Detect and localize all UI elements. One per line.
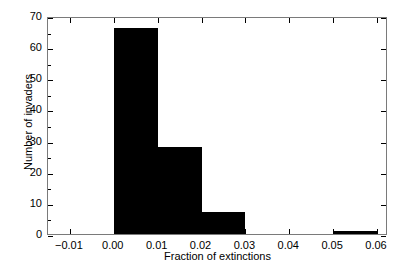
x-tick-mark bbox=[289, 229, 290, 234]
y-tick-mark-right bbox=[381, 18, 386, 19]
x-tick-mark bbox=[158, 229, 159, 234]
x-tick-label: 0.05 bbox=[309, 240, 355, 251]
y-tick-label: 70 bbox=[2, 11, 42, 22]
y-tick-mark bbox=[48, 49, 53, 50]
y-tick-label: 50 bbox=[2, 73, 42, 84]
y-minor-tick-mark bbox=[48, 96, 51, 97]
x-tick-mark-top bbox=[70, 18, 71, 23]
x-tick-mark bbox=[70, 229, 71, 234]
y-tick-mark bbox=[48, 205, 53, 206]
y-tick-mark-right bbox=[381, 236, 386, 237]
x-tick-mark-top bbox=[202, 18, 203, 23]
x-tick-label: −0.01 bbox=[46, 240, 92, 251]
y-tick-mark bbox=[48, 174, 53, 175]
y-axis-title: Number of invaders bbox=[22, 32, 34, 212]
histogram-figure: Number of invaders Fraction of extinctio… bbox=[0, 0, 402, 270]
y-minor-tick-mark bbox=[48, 220, 51, 221]
y-minor-tick-mark bbox=[48, 189, 51, 190]
histogram-bar bbox=[158, 147, 202, 234]
y-tick-label: 10 bbox=[2, 198, 42, 209]
y-tick-mark-right bbox=[381, 80, 386, 81]
x-tick-mark-top bbox=[245, 18, 246, 23]
x-tick-mark bbox=[377, 229, 378, 234]
y-tick-label: 30 bbox=[2, 136, 42, 147]
histogram-bar bbox=[114, 28, 158, 234]
x-tick-mark-top bbox=[377, 18, 378, 23]
x-tick-label: 0.04 bbox=[265, 240, 311, 251]
y-tick-mark bbox=[48, 236, 53, 237]
y-tick-mark-right bbox=[381, 205, 386, 206]
x-tick-mark bbox=[245, 229, 246, 234]
x-tick-mark bbox=[333, 229, 334, 234]
x-tick-mark bbox=[114, 229, 115, 234]
y-tick-mark bbox=[48, 80, 53, 81]
x-tick-mark-top bbox=[114, 18, 115, 23]
x-tick-label: 0.01 bbox=[134, 240, 180, 251]
y-tick-label: 40 bbox=[2, 104, 42, 115]
y-tick-mark-right bbox=[381, 174, 386, 175]
x-tick-mark-top bbox=[333, 18, 334, 23]
x-tick-mark-top bbox=[289, 18, 290, 23]
y-tick-mark bbox=[48, 143, 53, 144]
x-tick-label: 0.03 bbox=[221, 240, 267, 251]
y-tick-mark-right bbox=[381, 111, 386, 112]
y-tick-label: 20 bbox=[2, 167, 42, 178]
plot-area bbox=[47, 17, 387, 235]
y-tick-mark-right bbox=[381, 143, 386, 144]
y-minor-tick-mark bbox=[48, 34, 51, 35]
x-tick-label: 0.02 bbox=[178, 240, 224, 251]
y-tick-mark bbox=[48, 18, 53, 19]
histogram-bar bbox=[333, 231, 377, 234]
y-minor-tick-mark bbox=[48, 127, 51, 128]
x-tick-mark bbox=[202, 229, 203, 234]
x-axis-title: Fraction of extinctions bbox=[47, 250, 388, 262]
y-tick-label: 60 bbox=[2, 42, 42, 53]
histogram-bar bbox=[202, 212, 246, 234]
x-tick-mark-top bbox=[158, 18, 159, 23]
y-tick-mark-right bbox=[381, 49, 386, 50]
x-tick-label: 0.00 bbox=[90, 240, 136, 251]
y-minor-tick-mark bbox=[48, 158, 51, 159]
y-tick-label: 0 bbox=[2, 229, 42, 240]
x-tick-label: 0.06 bbox=[353, 240, 399, 251]
y-tick-mark bbox=[48, 111, 53, 112]
y-minor-tick-mark bbox=[48, 65, 51, 66]
